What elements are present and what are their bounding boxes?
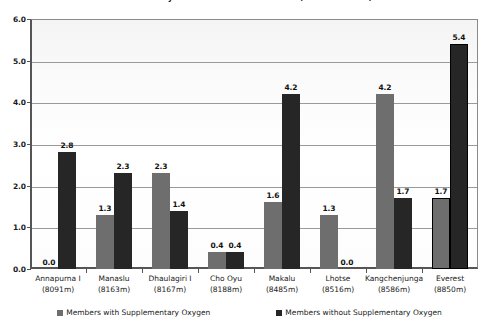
legend-swatch-icon: [276, 310, 282, 316]
category-name: Annapurna I: [35, 274, 81, 285]
x-axis-tick-mark: [142, 269, 143, 273]
x-axis-category-label: Dhaulagiri I(8167m): [148, 274, 191, 295]
x-axis-category-label: Annapurna I(8091m): [35, 274, 81, 295]
category-name: Manaslu: [98, 274, 130, 285]
y-axis-tick-mark: [27, 269, 31, 270]
x-axis-tick-mark: [86, 269, 87, 273]
category-name: Everest: [434, 274, 466, 285]
chart-legend: Members with Supplementary OxygenMembers…: [0, 308, 499, 317]
x-axis-category-label: Lhotse(8516m): [322, 274, 354, 295]
category-elevation: (8167m): [148, 285, 191, 296]
bar-chart: Deaths by Members on 8000m Peaks (% of M…: [0, 0, 499, 324]
y-axis-tick-label: 0.0: [0, 265, 26, 274]
category-name: Dhaulagiri I: [148, 274, 191, 285]
x-axis-tick-mark: [254, 269, 255, 273]
category-elevation: (8850m): [434, 285, 466, 296]
y-axis-tick-mark: [27, 19, 31, 20]
category-elevation: (8516m): [322, 285, 354, 296]
category-elevation: (8091m): [35, 285, 81, 296]
x-axis-tick-mark: [366, 269, 367, 273]
x-axis-tick-mark: [198, 269, 199, 273]
y-axis-tick-label: 2.0: [0, 181, 26, 190]
legend-label: Members with Supplementary Oxygen: [66, 308, 210, 317]
y-axis-tick-mark: [27, 61, 31, 62]
y-axis-tick-mark: [27, 186, 31, 187]
x-axis-tick-mark: [422, 269, 423, 273]
x-axis-category-label: Kangchenjunga(8586m): [365, 274, 423, 295]
category-elevation: (8188m): [210, 285, 242, 296]
y-axis-tick-label: 4.0: [0, 98, 26, 107]
category-elevation: (8163m): [98, 285, 130, 296]
x-axis-category-label: Cho Oyu(8188m): [210, 274, 242, 295]
x-axis-category-label: Manaslu(8163m): [98, 274, 130, 295]
y-axis-tick-mark: [27, 227, 31, 228]
legend-swatch-icon: [57, 310, 63, 316]
y-axis-tick-mark: [27, 102, 31, 103]
gridline: [32, 228, 477, 229]
gridline: [32, 62, 477, 63]
category-name: Cho Oyu: [210, 274, 242, 285]
category-elevation: (8485m): [266, 285, 298, 296]
x-axis-labels: Annapurna I(8091m)Manaslu(8163m)Dhaulagi…: [30, 274, 478, 300]
y-axis-labels: 0.01.02.03.04.05.06.0: [0, 19, 26, 269]
gridline: [32, 103, 477, 104]
legend-item[interactable]: Members without Supplementary Oxygen: [276, 308, 441, 317]
x-axis-tick-mark: [310, 269, 311, 273]
gridline: [32, 145, 477, 146]
y-axis-tick-mark: [27, 144, 31, 145]
plot-area: [30, 19, 478, 269]
gridline: [32, 187, 477, 188]
x-axis-category-label: Everest(8850m): [434, 274, 466, 295]
category-name: Makalu: [266, 274, 298, 285]
x-axis-category-label: Makalu(8485m): [266, 274, 298, 295]
y-axis-tick-label: 1.0: [0, 223, 26, 232]
chart-title: Deaths by Members on 8000m Peaks (% of M…: [0, 0, 499, 2]
category-elevation: (8586m): [365, 285, 423, 296]
category-name: Lhotse: [322, 274, 354, 285]
category-name: Kangchenjunga: [365, 274, 423, 285]
y-axis-tick-label: 6.0: [0, 15, 26, 24]
legend-label: Members without Supplementary Oxygen: [285, 308, 441, 317]
legend-item[interactable]: Members with Supplementary Oxygen: [57, 308, 210, 317]
y-axis-tick-label: 3.0: [0, 140, 26, 149]
y-axis-tick-label: 5.0: [0, 56, 26, 65]
